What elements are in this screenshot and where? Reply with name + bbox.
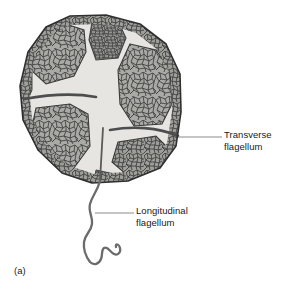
figure-panel: Transverse flagellum Longitudinal flagel… <box>0 0 296 294</box>
annotation-longitudinal-line1: Longitudinal <box>136 205 188 217</box>
annotation-transverse-line2: flagellum <box>224 141 272 153</box>
panel-letter: (a) <box>14 265 26 276</box>
annotation-transverse-flagellum: Transverse flagellum <box>224 129 272 152</box>
annotation-transverse-line1: Transverse <box>224 129 272 141</box>
annotation-longitudinal-flagellum: Longitudinal flagellum <box>136 205 188 228</box>
annotation-longitudinal-line2: flagellum <box>136 217 188 229</box>
longitudinal-flagellum <box>84 181 120 264</box>
cell-body <box>20 15 181 183</box>
